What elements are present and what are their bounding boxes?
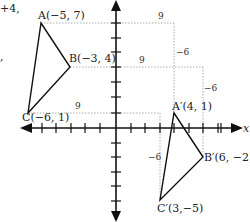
- label-a: A(−5, 7): [37, 9, 85, 22]
- triangle-a-prime-b-prime-c-prime: [160, 113, 203, 200]
- y-axis-down-arrow-icon: [111, 211, 121, 222]
- label-b-prime: B′(6, −2): [204, 151, 250, 164]
- label-b: B(−3, 4): [69, 52, 116, 65]
- x-axis-label: x: [243, 122, 250, 135]
- x-axis-left-arrow-icon: [20, 123, 32, 133]
- label-b-shift-horizontal: 9: [139, 55, 145, 65]
- x-axis-right-arrow-icon: [231, 123, 243, 133]
- label-c-shift-horizontal: 9: [75, 101, 81, 111]
- coordinate-plane-diagram: A(−5, 7) B(−3, 4) C(−6, 1) A′(4, 1) B′(6…: [0, 0, 250, 222]
- label-b-shift-vertical: −6: [204, 83, 218, 93]
- label-c-shift-vertical: −6: [148, 152, 162, 162]
- label-a-shift-horizontal: 9: [158, 11, 164, 21]
- triangle-abc: [28, 23, 70, 113]
- label-a-shift-vertical: −6: [176, 47, 190, 57]
- label-a-prime: A′(4, 1): [171, 100, 212, 113]
- label-c-prime: C′(3,−5): [157, 202, 203, 215]
- label-c: C(−6, 1): [22, 111, 69, 124]
- y-axis-up-arrow-icon: [111, 0, 121, 11]
